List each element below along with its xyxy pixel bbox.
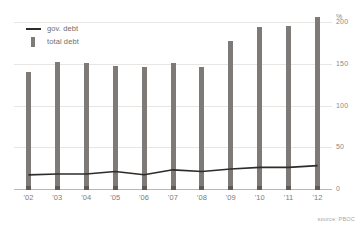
x-tick-mark xyxy=(55,186,60,190)
y-axis-tick-label: 50 xyxy=(336,143,362,150)
x-axis-tick-label: '09 xyxy=(219,193,243,202)
x-tick-mark xyxy=(228,186,233,190)
y-axis-tick-label: 0 xyxy=(336,185,362,192)
source-note: source: PBOC xyxy=(317,216,355,222)
bar-swatch-icon xyxy=(22,37,44,47)
x-axis-tick-label: '12 xyxy=(306,193,330,202)
x-tick-mark xyxy=(315,186,320,190)
legend-item-label: total debt xyxy=(44,37,79,46)
x-tick-mark xyxy=(84,186,89,190)
line-swatch-icon xyxy=(22,28,44,30)
x-axis-tick-label: '06 xyxy=(132,193,156,202)
x-tick-mark xyxy=(171,186,176,190)
legend-item-gov-debt[interactable]: gov. debt xyxy=(22,22,79,35)
debt-chart: gov. debt total debt % 200150100500 '02'… xyxy=(0,0,364,227)
x-axis-tick-label: '07 xyxy=(161,193,185,202)
legend-item-total-debt[interactable]: total debt xyxy=(22,35,79,48)
x-tick-mark xyxy=(26,186,31,190)
x-axis-tick-label: '08 xyxy=(190,193,214,202)
x-axis-tick-label: '02 xyxy=(16,193,40,202)
x-tick-mark xyxy=(142,186,147,190)
x-axis-tick-label: '11 xyxy=(277,193,301,202)
chart-legend: gov. debt total debt xyxy=(22,22,79,48)
x-tick-mark xyxy=(257,186,262,190)
x-tick-mark xyxy=(199,186,204,190)
x-axis-tick-label: '04 xyxy=(74,193,98,202)
y-axis-tick-label: 200 xyxy=(336,18,362,25)
x-axis-tick-label: '05 xyxy=(103,193,127,202)
x-tick-mark xyxy=(286,186,291,190)
y-axis-tick-label: 100 xyxy=(336,102,362,109)
legend-item-label: gov. debt xyxy=(44,24,78,33)
x-tick-mark xyxy=(113,186,118,190)
x-axis-tick-label: '03 xyxy=(45,193,69,202)
y-axis-tick-label: 150 xyxy=(336,60,362,67)
x-axis-tick-label: '10 xyxy=(248,193,272,202)
